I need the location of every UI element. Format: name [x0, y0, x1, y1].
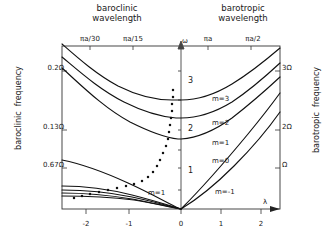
left-tick-marks	[62, 71, 67, 168]
top-tick-marks	[90, 46, 251, 50]
omega-vertical-axis	[178, 41, 184, 209]
dotted-branch	[73, 89, 175, 200]
plot-vector-layer	[0, 0, 322, 241]
figure-canvas: baroclinic wavelength barotropic wavelen…	[0, 0, 322, 241]
bottom-tick-marks	[86, 209, 261, 214]
curve-group	[62, 44, 280, 209]
curve-m-neg1	[181, 93, 280, 209]
lambda-axis-arrow	[270, 206, 280, 212]
curve-m2	[62, 57, 280, 118]
right-tick-marks	[275, 71, 280, 168]
